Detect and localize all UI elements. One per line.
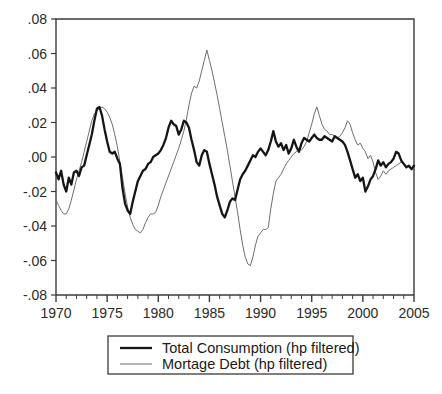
x-tick-label: 1980 — [143, 305, 174, 321]
x-tick-label: 1995 — [296, 305, 327, 321]
x-tick-label: 1990 — [245, 305, 276, 321]
y-tick-label: .08 — [28, 11, 48, 27]
legend-label-mortgage-debt: Mortage Debt (hp filtered) — [162, 356, 327, 372]
y-tick-label: .06 — [28, 46, 48, 62]
y-tick-label: .04 — [28, 80, 48, 96]
chart-background — [0, 0, 442, 394]
x-tick-label: 2005 — [398, 305, 429, 321]
y-tick-label: .00 — [28, 149, 48, 165]
chart-figure: .08.06.04.02.00-.02-.04-.06-.08 19701975… — [0, 0, 442, 394]
x-tick-label: 2000 — [347, 305, 378, 321]
chart-legend: Total Consumption (hp filtered)Mortage D… — [108, 336, 359, 374]
y-tick-label: -.08 — [23, 287, 47, 303]
line-chart: .08.06.04.02.00-.02-.04-.06-.08 19701975… — [0, 0, 442, 394]
x-tick-label: 1975 — [92, 305, 123, 321]
legend-label-total-consumption: Total Consumption (hp filtered) — [162, 340, 359, 356]
y-tick-label: .02 — [28, 115, 48, 131]
x-tick-label: 1985 — [194, 305, 225, 321]
y-tick-label: -.06 — [23, 253, 47, 269]
x-tick-label: 1970 — [40, 305, 71, 321]
y-tick-label: -.04 — [23, 218, 47, 234]
y-tick-label: -.02 — [23, 184, 47, 200]
